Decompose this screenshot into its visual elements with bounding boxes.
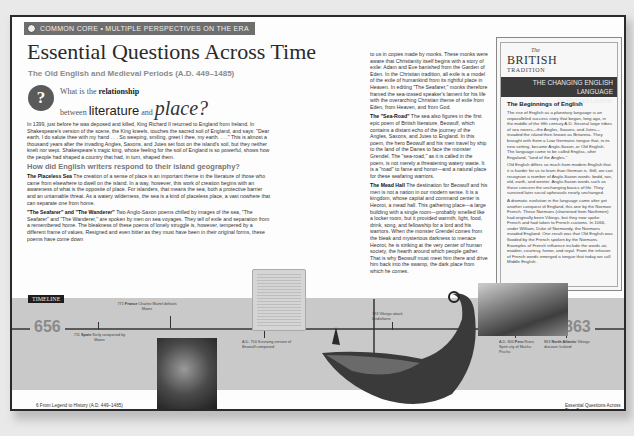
sidebar-paragraph: The rise of English as a planetary langu… xyxy=(507,110,613,160)
paragraph-continuation: to us in copies made by monks. These mon… xyxy=(370,51,488,110)
event-text: Sicily conquered by Moors xyxy=(92,333,125,342)
intro-paragraph: In 1399, just before he was deposed and … xyxy=(27,121,272,161)
section-heading: How did English writers respond to their… xyxy=(27,164,272,171)
event-place: North Atlantic xyxy=(551,340,576,344)
banner-bullet-icon xyxy=(27,24,36,33)
article-column-1: In 1399, just before he was deposed and … xyxy=(27,121,272,245)
event-place: Spain xyxy=(81,333,91,337)
paragraph-lead: The Placeless Sea xyxy=(27,173,72,179)
paragraph-lead: "The Seafarer" and "The Wanderer" xyxy=(27,209,115,215)
question-text: between xyxy=(60,108,89,117)
page-subtitle: The Old English and Medieval Periods (A.… xyxy=(28,69,234,78)
footer-right-page-number: Essential Questions Across Time 7 xyxy=(565,403,624,411)
paragraph-body: The sea also figures in the first epic p… xyxy=(370,113,487,178)
paragraph-mead-hall: The Mead Hall The destination for Beowul… xyxy=(370,182,488,274)
page-title: Essential Questions Across Time xyxy=(27,39,316,65)
paragraph-seafarer-wanderer: "The Seafarer" and "The Wanderer" Two An… xyxy=(27,209,272,242)
battle-engraving-image xyxy=(157,338,217,411)
event-date: A.D. 750 xyxy=(242,340,257,344)
timeline-tick xyxy=(170,316,171,328)
event-text: Charles Martel defeats Moors xyxy=(138,302,176,311)
timeline-event: A.D. 800 Peru Rises Spirit city of Machu… xyxy=(499,340,534,354)
timeline-year-start: 656 xyxy=(30,318,65,336)
event-place: Peru xyxy=(515,340,523,344)
timeline-event: A.D. 750 Surviving version of Beowulf co… xyxy=(242,340,292,350)
timeline-event: 711 Spain Sicily conquered by Moors xyxy=(72,333,127,343)
question-literature: literature xyxy=(89,103,140,118)
british-tradition-sidebar: The BRITISH TRADITION THE CHANGING ENGLI… xyxy=(496,37,622,291)
article-column-2: to us in copies made by monks. These mon… xyxy=(370,51,488,278)
essential-question-line1: What is the relationship xyxy=(60,87,139,96)
timeline-tab: TIMELINE xyxy=(28,295,64,303)
event-date: 711 xyxy=(74,333,80,337)
sidebar-feature-title: THE CHANGING ENGLISH LANGUAGE xyxy=(501,78,613,96)
sidebar-body: The rise of English as a planetary langu… xyxy=(507,110,613,267)
paragraph-lead: The Mead Hall xyxy=(370,182,405,188)
event-date: A.D. 800 xyxy=(499,340,514,344)
sidebar-title-band: THE CHANGING ENGLISH LANGUAGE by Richard… xyxy=(501,77,617,97)
timeline-event: 863 North Atlantic Vikings discover Icel… xyxy=(544,340,594,350)
question-place: place? xyxy=(155,97,208,119)
viking-ship-image xyxy=(312,289,482,411)
event-place: France xyxy=(125,302,137,306)
sidebar-heading: The Beginnings of English xyxy=(507,101,583,107)
question-keyword: relationship xyxy=(98,87,139,96)
event-date: 771 xyxy=(117,302,123,306)
common-core-banner: COMMON CORE • MULTIPLE PERSPECTIVES ON T… xyxy=(24,22,255,35)
question-mark-icon: ? xyxy=(28,85,54,111)
beowulf-manuscript-image xyxy=(252,269,306,331)
sidebar-paragraph: A dramatic evolution in the language cam… xyxy=(507,198,613,265)
sidebar-frame: The BRITISH TRADITION THE CHANGING ENGLI… xyxy=(500,42,618,287)
essential-question-line2: between literature and place? xyxy=(60,97,208,120)
sidebar-paragraph: Old English differs so much from modern … xyxy=(507,162,613,196)
paragraph-body: The destination for Beowulf and his men … xyxy=(370,182,488,274)
machu-picchu-image xyxy=(478,283,568,336)
timeline-event: 771 France Charles Martel defeats Moors xyxy=(117,302,177,312)
question-text: and xyxy=(139,108,155,117)
paragraph-placeless-sea: The Placeless Sea The creation of a sens… xyxy=(27,173,272,206)
textbook-spread: COMMON CORE • MULTIPLE PERSPECTIVES ON T… xyxy=(10,15,626,411)
brand-tradition: TRADITION xyxy=(507,67,545,73)
timeline-tick xyxy=(264,330,265,338)
timeline-tick xyxy=(98,322,99,330)
banner-label: COMMON CORE • MULTIPLE PERSPECTIVES ON T… xyxy=(40,25,249,32)
paragraph-lead: The "Sea-Road" xyxy=(370,113,410,119)
event-date: 863 xyxy=(544,340,550,344)
question-text: What is the xyxy=(60,87,98,96)
brand-british: BRITISH xyxy=(507,53,557,68)
footer-left-page-number: 6 From Legend to History (A.D. 449–1485) xyxy=(36,403,123,408)
paragraph-sea-road: The "Sea-Road" The sea also figures in t… xyxy=(370,113,488,179)
